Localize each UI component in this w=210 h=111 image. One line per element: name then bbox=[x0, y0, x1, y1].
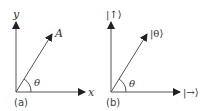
y-axis-label: y bbox=[12, 8, 20, 21]
angle-label: θ bbox=[34, 77, 40, 88]
caption-b: (b) bbox=[106, 97, 120, 108]
panel-b: |↑⟩ |→⟩ |θ⟩ θ (b) bbox=[106, 9, 199, 108]
x-axis-label: x bbox=[88, 86, 95, 99]
theta-ket-label: |θ⟩ bbox=[150, 28, 163, 40]
angle-arc bbox=[24, 79, 31, 92]
right-ket-label: |→⟩ bbox=[183, 87, 199, 99]
caption-a: (a) bbox=[14, 97, 28, 108]
up-ket-label: |↑⟩ bbox=[106, 9, 122, 21]
angle-arc bbox=[119, 79, 126, 92]
vector-diagram: y x A θ (a) |↑⟩ |→⟩ |θ⟩ θ (b) bbox=[0, 0, 210, 111]
panel-a: y x A θ (a) bbox=[12, 8, 95, 108]
vector-a-label: A bbox=[54, 27, 63, 40]
angle-label: θ bbox=[129, 78, 135, 89]
